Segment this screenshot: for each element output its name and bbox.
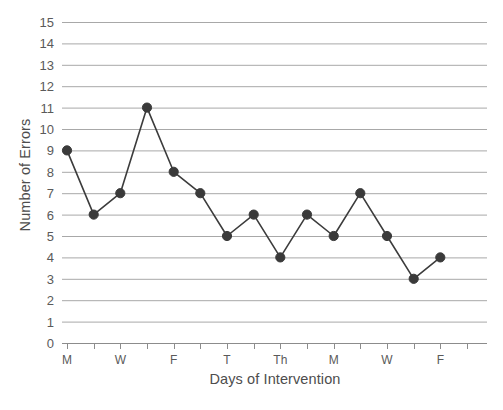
y-tick-label: 5	[26, 230, 54, 243]
data-point[interactable]	[196, 189, 205, 198]
data-point[interactable]	[276, 253, 285, 262]
y-tick-label: 3	[26, 273, 54, 286]
y-tick-label: 11	[26, 102, 54, 115]
data-point[interactable]	[116, 189, 125, 198]
x-tick-label: Th	[265, 354, 295, 366]
y-tick-label: 7	[26, 187, 54, 200]
data-point[interactable]	[302, 210, 311, 219]
y-tick-label: 15	[26, 16, 54, 29]
y-tick-label: 1	[26, 316, 54, 329]
chart-figure: Number of Errors Days of Intervention 15…	[0, 0, 503, 410]
y-tick-label: 8	[26, 166, 54, 179]
data-point[interactable]	[409, 274, 418, 283]
data-point[interactable]	[329, 231, 338, 240]
y-tick-label: 6	[26, 209, 54, 222]
x-tick-label: T	[212, 354, 242, 366]
line-chart-plot	[0, 0, 503, 410]
y-tick-label: 12	[26, 80, 54, 93]
y-tick-label: 10	[26, 123, 54, 136]
y-tick-label: 0	[26, 337, 54, 350]
data-point[interactable]	[222, 231, 231, 240]
data-point[interactable]	[142, 103, 151, 112]
data-point[interactable]	[356, 189, 365, 198]
data-point[interactable]	[382, 231, 391, 240]
x-tick-label: F	[425, 354, 455, 366]
data-point[interactable]	[169, 167, 178, 176]
x-tick-label: F	[159, 354, 189, 366]
data-point[interactable]	[89, 210, 98, 219]
y-tick-label: 2	[26, 294, 54, 307]
y-tick-label: 13	[26, 59, 54, 72]
gridline-group	[62, 23, 487, 344]
x-tick-label: M	[52, 354, 82, 366]
data-point[interactable]	[62, 146, 71, 155]
y-tick-label: 14	[26, 37, 54, 50]
data-point[interactable]	[436, 253, 445, 262]
x-tick-label: W	[372, 354, 402, 366]
y-tick-label: 4	[26, 251, 54, 264]
y-tick-label: 9	[26, 144, 54, 157]
x-tick-label: M	[319, 354, 349, 366]
x-tick-label: W	[105, 354, 135, 366]
data-point[interactable]	[249, 210, 258, 219]
x-axis-title: Days of Intervention	[60, 371, 490, 387]
